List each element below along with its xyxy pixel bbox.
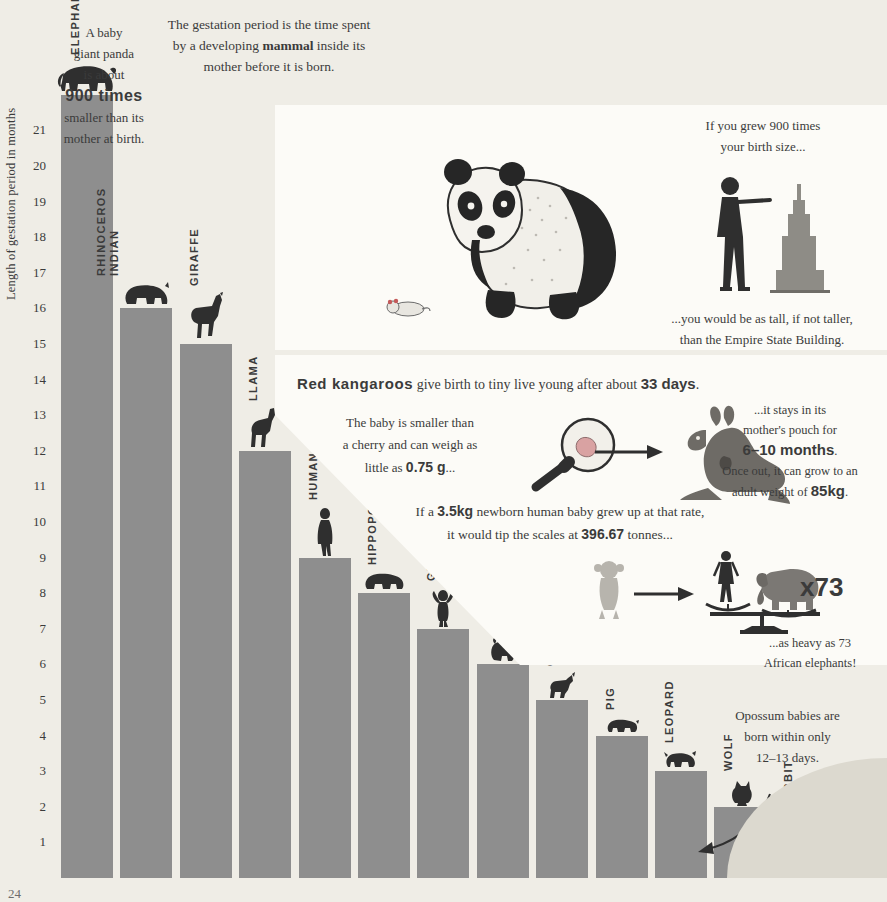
headline-line-2c: inside its bbox=[313, 38, 365, 53]
panda-caption-l1: A baby bbox=[85, 25, 122, 40]
headline-line-1: The gestation period is the time spent bbox=[168, 17, 370, 32]
kangaroo-headline-end: . bbox=[696, 377, 700, 392]
kangaroo-headline: Red kangaroos give birth to tiny live yo… bbox=[297, 375, 877, 393]
y-axis-tick: 16 bbox=[6, 300, 46, 316]
panda-caption: A baby giant panda is about 900 times sm… bbox=[14, 22, 194, 149]
pouch-line-2: mother's pouch for bbox=[743, 423, 837, 437]
kangaroo-headline-title: Red kangaroos bbox=[297, 375, 413, 392]
arrow-right-icon bbox=[595, 442, 665, 462]
bar-pig: PIG bbox=[596, 736, 648, 878]
giraffe-silhouette-icon bbox=[186, 292, 226, 344]
y-axis-tick: 6 bbox=[6, 656, 46, 672]
opossum-line-3: 12–13 days. bbox=[756, 750, 819, 765]
bar-baboon: BABOON bbox=[477, 664, 529, 878]
chart-bottom-margin bbox=[0, 878, 887, 902]
pouch-line-4: Once out, it can grow to an bbox=[722, 464, 858, 478]
y-axis-tick: 4 bbox=[6, 728, 46, 744]
grew-caption: If you grew 900 times your birth size... bbox=[648, 115, 878, 157]
y-axis-tick: 20 bbox=[6, 158, 46, 174]
rate-tonnes: 396.67 bbox=[581, 526, 624, 542]
pouch-duration: 6–10 months bbox=[743, 441, 835, 458]
rate-line-1c: newborn human baby grew up at that rate, bbox=[473, 504, 704, 519]
empire-line-1: ...you would be as tall, if not taller, bbox=[671, 311, 852, 326]
y-axis-tick: 13 bbox=[6, 407, 46, 423]
pouch-adult-weight: 85kg bbox=[811, 482, 845, 499]
y-axis-tick: 15 bbox=[6, 336, 46, 352]
baby-line-3c: ... bbox=[446, 460, 456, 475]
rate-line-2c: tonnes... bbox=[624, 527, 673, 542]
empire-line-2: than the Empire State Building. bbox=[680, 332, 844, 347]
pouch-line-1: ...it stays in its bbox=[754, 403, 826, 417]
y-axis-tick: 5 bbox=[6, 692, 46, 708]
kangaroo-headline-days: 33 days bbox=[641, 375, 696, 392]
heavy-caption: ...as heavy as 73 African elephants! bbox=[735, 633, 885, 673]
rate-birth-weight: 3.5kg bbox=[437, 503, 473, 519]
y-axis-tick: 8 bbox=[6, 585, 46, 601]
pouch-line-5a: adult weight of bbox=[732, 485, 811, 499]
empire-caption: ...you would be as tall, if not taller, … bbox=[640, 308, 884, 350]
opossum-line-2: born within only bbox=[744, 729, 831, 744]
bar-giraffe: GIRAFFE bbox=[180, 344, 232, 878]
bar-human: HUMAN bbox=[299, 558, 351, 878]
panda-caption-highlight: 900 times bbox=[65, 87, 142, 104]
bar-label: LLAMA bbox=[247, 355, 259, 401]
bar-llama: LLAMA bbox=[239, 451, 291, 878]
baby-line-2: a cherry and can weigh as bbox=[343, 437, 478, 452]
kangaroo-rate-caption: If a 3.5kg newborn human baby grew up at… bbox=[320, 500, 800, 546]
kangaroo-pouch-caption: ...it stays in its mother's pouch for 6–… bbox=[700, 400, 880, 502]
y-axis-tick: 19 bbox=[6, 194, 46, 210]
page-number: 24 bbox=[8, 886, 21, 902]
headline-line-3: mother before it is born. bbox=[204, 59, 335, 74]
y-axis-tick: 10 bbox=[6, 514, 46, 530]
arrow-right-icon-2 bbox=[634, 585, 696, 603]
bar-label: INDIANRHINOCEROS bbox=[108, 188, 134, 277]
y-axis-tick: 9 bbox=[6, 550, 46, 566]
baby-panda-illustration bbox=[382, 295, 432, 321]
opossum-line-1: Opossum babies are bbox=[735, 708, 840, 723]
y-axis-tick: 17 bbox=[6, 265, 46, 281]
baby-line-3a: little as bbox=[365, 460, 406, 475]
baby-weight: 0.75 g bbox=[406, 459, 446, 475]
monkey-illustration bbox=[586, 558, 632, 620]
kangaroo-baby-caption: The baby is smaller than a cherry and ca… bbox=[295, 412, 525, 479]
bar-label: PIG bbox=[604, 686, 616, 709]
pouch-line-3: . bbox=[834, 444, 837, 458]
grew-line-2: your birth size... bbox=[721, 139, 806, 154]
baby-line-1: The baby is smaller than bbox=[346, 415, 474, 430]
goat-silhouette-icon bbox=[546, 672, 578, 700]
rate-line-1a: If a bbox=[416, 504, 438, 519]
hippopotamus-silhouette-icon bbox=[363, 571, 405, 593]
y-axis-tick: 1 bbox=[6, 834, 46, 850]
y-axis-tick: 12 bbox=[6, 443, 46, 459]
y-axis-tick: 3 bbox=[6, 763, 46, 779]
y-axis-tick: 2 bbox=[6, 799, 46, 815]
kangaroo-headline-mid: give birth to tiny live young after abou… bbox=[413, 377, 640, 392]
pig-silhouette-icon bbox=[605, 716, 639, 736]
panda-caption-l5: mother at birth. bbox=[64, 131, 145, 146]
bar-hippopotamus: HIPPOPOTAMUS bbox=[358, 593, 410, 878]
multiplier-label: x73 bbox=[800, 572, 843, 603]
panda-caption-l2: giant panda bbox=[74, 46, 134, 61]
panda-caption-l3: is about bbox=[84, 67, 125, 82]
heavy-line-2: African elephants! bbox=[764, 656, 857, 670]
bar-goat: GOAT bbox=[536, 700, 588, 878]
bar-indian-rhinoceros: INDIANRHINOCEROS bbox=[120, 308, 172, 878]
y-axis-tick: 11 bbox=[6, 478, 46, 494]
bar-label: LEOPARD bbox=[663, 680, 675, 743]
human-illustration bbox=[714, 551, 738, 602]
indian-rhinoceros-silhouette-icon bbox=[123, 282, 169, 308]
person-pointing-illustration bbox=[700, 170, 840, 305]
headline-mammal: mammal bbox=[262, 38, 313, 53]
y-axis-tick: 14 bbox=[6, 372, 46, 388]
panda-illustration bbox=[410, 140, 640, 325]
panda-caption-l4: smaller than its bbox=[64, 110, 143, 125]
heavy-line-1: ...as heavy as 73 bbox=[769, 636, 851, 650]
bar-gibbon: GIBBON bbox=[417, 629, 469, 878]
opossum-note: Opossum babies are born within only 12–1… bbox=[690, 705, 885, 768]
y-axis-tick: 18 bbox=[6, 229, 46, 245]
rate-line-2a: it would tip the scales at bbox=[447, 527, 581, 542]
pouch-line-5c: . bbox=[845, 485, 848, 499]
bar-label: GIRAFFE bbox=[188, 228, 200, 286]
y-axis-tick: 7 bbox=[6, 621, 46, 637]
grew-line-1: If you grew 900 times bbox=[706, 118, 821, 133]
